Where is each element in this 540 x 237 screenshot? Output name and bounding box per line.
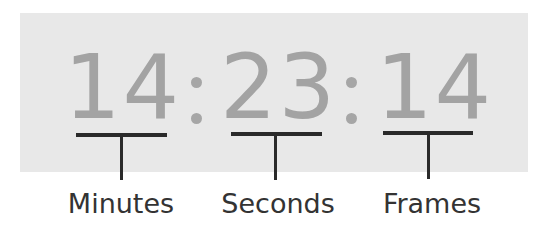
frames-bracket-stem: [427, 133, 430, 179]
seconds-label: Seconds: [198, 188, 358, 219]
colon-dot-bottom: [191, 113, 202, 124]
colon-separator-2: [346, 77, 358, 127]
colon-separator-1: [191, 77, 203, 127]
frames-value: 14: [376, 42, 488, 132]
seconds-value: 23: [220, 42, 332, 132]
frames-label: Frames: [352, 188, 512, 219]
minutes-bracket-stem: [120, 135, 123, 180]
colon-dot-top: [346, 77, 357, 88]
minutes-value: 14: [64, 42, 176, 132]
colon-dot-top: [191, 77, 202, 88]
seconds-bracket-stem: [274, 134, 277, 180]
minutes-label: Minutes: [41, 188, 201, 219]
colon-dot-bottom: [346, 113, 357, 124]
